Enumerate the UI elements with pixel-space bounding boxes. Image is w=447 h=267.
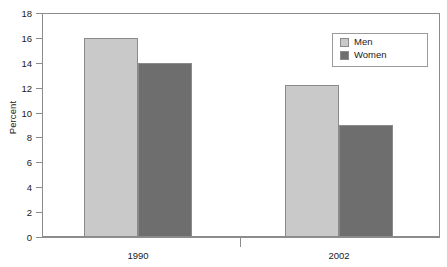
- y-axis-tick-label: 18: [8, 8, 32, 19]
- bar-1990-women: [138, 63, 192, 237]
- bar-2002-women: [339, 125, 393, 237]
- x-axis-label-2002: 2002: [328, 250, 349, 261]
- y-axis-tick-label: 6: [8, 157, 32, 168]
- y-axis-tick-label: 8: [8, 132, 32, 143]
- legend-item-men: Men: [340, 37, 372, 47]
- legend-swatch-women-icon: [340, 51, 349, 60]
- bar-chart: Percent 024681012141618 19902002 Men Wom…: [0, 0, 447, 267]
- y-axis-tick-label: 16: [8, 33, 32, 44]
- y-axis-tick-label: 2: [8, 207, 32, 218]
- y-axis-tick-label: 0: [8, 232, 32, 243]
- legend-label-women: Women: [354, 50, 387, 60]
- bar-2002-men: [285, 85, 339, 237]
- legend-label-men: Men: [354, 37, 372, 47]
- bar-1990-men: [84, 38, 138, 237]
- legend-swatch-men-icon: [340, 38, 349, 47]
- y-axis-tick-label: 14: [8, 58, 32, 69]
- y-axis-tick-label: 12: [8, 83, 32, 94]
- legend-item-women: Women: [340, 50, 387, 60]
- y-axis-tick-label: 10: [8, 108, 32, 119]
- legend: Men Women: [332, 33, 428, 67]
- x-axis-group-separator-tick: [240, 238, 241, 247]
- gridline: [42, 237, 440, 238]
- x-axis-label-1990: 1990: [127, 250, 148, 261]
- y-axis-tick-label: 4: [8, 182, 32, 193]
